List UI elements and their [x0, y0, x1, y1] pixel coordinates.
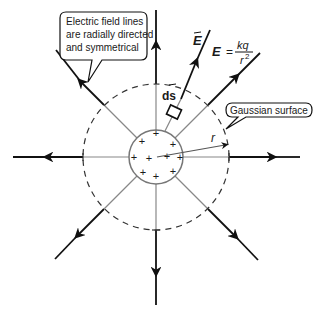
svg-text:+: +	[153, 170, 159, 182]
svg-text:are radially directed: are radially directed	[66, 29, 153, 40]
svg-text:+: +	[153, 127, 159, 139]
field-formula: E = kq r 2	[212, 39, 253, 66]
radius-label: r	[211, 131, 216, 145]
svg-text:Electric field lines: Electric field lines	[66, 16, 143, 27]
svg-text:+: +	[170, 138, 176, 150]
svg-text:and symmetrical: and symmetrical	[66, 42, 139, 53]
svg-text:=: =	[226, 45, 233, 59]
svg-text:+: +	[170, 165, 176, 177]
field-lines-callout: Electric field lines are radially direct…	[60, 12, 153, 82]
svg-text:+: +	[139, 135, 145, 147]
svg-text:+: +	[146, 152, 152, 164]
gauss-law-diagram: + + + + + + + + + + r ds E E = kq r 2 El…	[0, 0, 324, 313]
svg-text:Gaussian surface: Gaussian surface	[230, 105, 308, 116]
svg-text:2: 2	[245, 52, 250, 61]
e-vector-label: E	[193, 33, 202, 48]
gaussian-surface-callout: Gaussian surface	[226, 103, 312, 129]
svg-text:E: E	[212, 44, 221, 59]
svg-text:+: +	[140, 166, 146, 178]
svg-text:+: +	[131, 151, 137, 163]
ds-label: ds	[162, 89, 176, 103]
svg-text:kq: kq	[237, 39, 250, 51]
ds-area-element	[166, 105, 181, 119]
